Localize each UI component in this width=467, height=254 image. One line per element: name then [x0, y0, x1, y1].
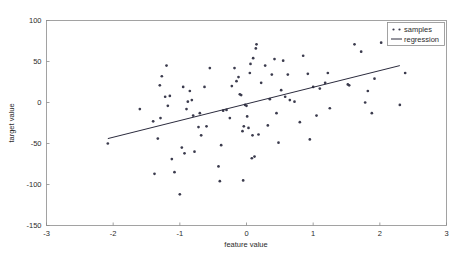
- sample-point: [302, 54, 305, 57]
- sample-point: [275, 112, 278, 115]
- y-tick-label: -150: [26, 221, 41, 230]
- sample-point: [380, 41, 383, 44]
- sample-point: [246, 115, 249, 118]
- sample-point: [160, 75, 163, 78]
- sample-point: [288, 99, 291, 102]
- sample-point: [198, 112, 201, 115]
- sample-point: [273, 58, 276, 61]
- y-tick-label: 0: [37, 98, 41, 107]
- sample-point: [185, 108, 188, 111]
- x-tick-label: 3: [444, 229, 448, 238]
- sample-point: [364, 101, 367, 104]
- plot-frame: [47, 21, 447, 226]
- sample-point: [282, 59, 285, 62]
- sample-point: [218, 180, 221, 183]
- legend: samples regression: [388, 23, 445, 46]
- sample-point: [250, 157, 253, 160]
- sample-point: [251, 134, 254, 137]
- sample-point: [370, 112, 373, 115]
- figure-container: -3-2-10123 -150-100-50050100 feature val…: [0, 0, 467, 254]
- sample-point: [242, 125, 245, 128]
- x-tick-label: -2: [110, 229, 117, 238]
- y-tick-label: 100: [29, 16, 42, 25]
- sample-point: [182, 86, 185, 89]
- sample-point: [170, 158, 173, 161]
- sample-point: [360, 50, 363, 53]
- sample-point: [353, 43, 356, 46]
- sample-point: [266, 124, 269, 127]
- sample-point: [180, 146, 183, 149]
- sample-point: [217, 165, 220, 168]
- sample-point: [398, 104, 401, 107]
- legend-regression-label: regression: [404, 35, 439, 44]
- sample-point: [228, 117, 231, 120]
- sample-point: [260, 81, 263, 84]
- sample-point: [220, 144, 223, 147]
- sample-point: [106, 142, 109, 145]
- sample-point: [208, 67, 211, 70]
- sample-point: [197, 126, 200, 129]
- sample-point: [404, 72, 407, 75]
- sample-point: [280, 89, 283, 92]
- sample-point: [242, 179, 245, 182]
- x-tick-label: -3: [43, 229, 50, 238]
- sample-point: [193, 150, 196, 153]
- sample-point: [257, 133, 260, 136]
- legend-samples-marker-a: [392, 28, 394, 30]
- sample-point: [186, 100, 189, 103]
- y-axis-title: target value: [7, 103, 16, 142]
- y-tick-label: -50: [31, 139, 42, 148]
- sample-point: [158, 84, 161, 87]
- sample-point: [159, 117, 162, 120]
- sample-point: [366, 90, 369, 93]
- sample-point: [293, 100, 296, 103]
- sample-point: [173, 171, 176, 174]
- sample-point: [298, 121, 301, 124]
- sample-point: [284, 95, 287, 98]
- sample-point: [183, 152, 186, 155]
- sample-point: [245, 104, 248, 107]
- sample-point: [165, 64, 168, 67]
- y-tick-label: -100: [26, 180, 41, 189]
- regression-line: [108, 66, 400, 139]
- sample-points-group: [106, 41, 406, 195]
- sample-point: [190, 99, 193, 102]
- sample-point: [255, 43, 258, 46]
- sample-point: [373, 77, 376, 80]
- sample-point: [249, 63, 252, 66]
- sample-point: [315, 114, 318, 117]
- sample-point: [306, 72, 309, 75]
- sample-point: [153, 172, 156, 175]
- x-axis-ticks: -3-2-10123: [43, 223, 448, 238]
- sample-point: [247, 127, 250, 130]
- sample-point: [326, 72, 329, 75]
- sample-point: [188, 90, 191, 93]
- sample-point: [166, 104, 169, 107]
- sample-point: [240, 94, 243, 97]
- sample-point: [277, 141, 280, 144]
- sample-point: [241, 130, 244, 133]
- sample-point: [264, 64, 267, 67]
- sample-point: [318, 87, 321, 90]
- x-tick-label: -1: [176, 229, 183, 238]
- sample-point: [156, 137, 159, 140]
- x-tick-label: 2: [378, 229, 382, 238]
- y-axis-ticks: -150-100-50050100: [26, 16, 49, 230]
- sample-point: [270, 73, 273, 76]
- sample-point: [235, 80, 238, 83]
- sample-point: [248, 72, 251, 75]
- legend-samples-label: samples: [404, 25, 432, 34]
- sample-point: [203, 86, 206, 89]
- y-tick-label: 50: [33, 57, 41, 66]
- sample-point: [286, 73, 289, 76]
- sample-point: [253, 155, 256, 158]
- x-tick-label: 1: [311, 229, 315, 238]
- sample-point: [308, 138, 311, 141]
- sample-point: [328, 107, 331, 110]
- sample-point: [168, 95, 171, 98]
- sample-point: [237, 76, 240, 79]
- sample-point: [254, 47, 257, 50]
- sample-point: [164, 95, 167, 98]
- legend-samples-marker-b: [398, 28, 400, 30]
- sample-point: [205, 125, 208, 128]
